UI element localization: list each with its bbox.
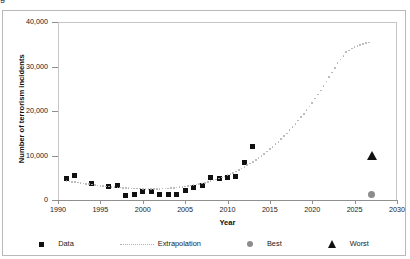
extrapolation-point — [263, 153, 265, 155]
x-axis-tick — [228, 200, 229, 204]
extrapolation-point — [311, 102, 313, 104]
extrapolation-point — [85, 183, 87, 185]
extrapolation-point — [71, 181, 73, 183]
square-icon — [39, 242, 44, 247]
circle-icon — [247, 241, 253, 247]
extrapolation-point — [244, 166, 246, 168]
extrapolation-point — [207, 181, 209, 183]
x-axis-tick-label: 2020 — [292, 206, 332, 213]
extrapolation-point — [334, 67, 336, 69]
triangle-icon — [328, 240, 336, 248]
extrapolation-point — [280, 138, 282, 140]
y-axis-tick-label: 10,000 — [0, 152, 48, 159]
extrapolation-point — [221, 177, 223, 179]
extrapolation-point — [182, 186, 184, 188]
data-point — [149, 189, 154, 194]
plot-area — [58, 22, 397, 200]
extrapolation-point — [286, 133, 288, 135]
data-point — [140, 189, 145, 194]
extrapolation-point — [255, 159, 257, 161]
extrapolation-point — [238, 169, 240, 171]
data-point — [183, 188, 188, 193]
legend-label: Best — [267, 240, 282, 247]
extrapolation-point — [74, 181, 76, 183]
legend-label: Worst — [350, 240, 369, 247]
x-axis-tick-label: 1995 — [80, 206, 120, 213]
x-axis-tick — [397, 200, 398, 204]
extrapolation-point — [300, 116, 302, 118]
y-axis-tick-label: 0 — [0, 196, 48, 203]
extrapolation-point — [235, 171, 237, 173]
data-point — [157, 192, 162, 197]
extrapolation-point — [122, 187, 124, 189]
y-axis-tick-label: 40,000 — [0, 18, 48, 25]
x-axis-tick-label: 2010 — [208, 206, 248, 213]
legend-item-best[interactable]: Best — [247, 240, 282, 247]
extrapolation-point — [102, 185, 104, 187]
x-axis-tick — [355, 200, 356, 204]
legend-item-worst[interactable]: Worst — [328, 240, 369, 248]
data-point — [250, 144, 255, 149]
extrapolation-point — [142, 188, 144, 190]
caption-fragment: g — [0, 0, 200, 5]
extrapolation-point — [198, 183, 200, 185]
extrapolation-point — [230, 173, 232, 175]
chart-legend: DataExtrapolationBestWorst — [2, 236, 406, 252]
data-point — [123, 193, 128, 198]
extrapolation-point — [252, 161, 254, 163]
extrapolation-point — [278, 141, 280, 143]
data-point — [72, 173, 77, 178]
extrapolation-point — [150, 188, 152, 190]
extrapolation-point — [88, 183, 90, 185]
extrapolation-point — [173, 187, 175, 189]
x-axis-tick-label: 2015 — [250, 206, 290, 213]
data-point — [174, 192, 179, 197]
extrapolation-point — [303, 113, 305, 115]
extrapolation-point — [170, 187, 172, 189]
x-axis-tick — [270, 200, 271, 204]
extrapolation-point — [148, 188, 150, 190]
x-axis-tick — [100, 200, 101, 204]
data-point — [166, 192, 171, 197]
extrapolation-point — [357, 45, 359, 47]
x-axis-tick — [185, 200, 186, 204]
legend-item-extrapolation[interactable]: Extrapolation — [120, 240, 201, 247]
extrapolation-point — [105, 186, 107, 188]
extrapolation-point — [100, 185, 102, 187]
x-axis-tick — [143, 200, 144, 204]
y-axis-tick — [52, 111, 58, 112]
y-axis-tick-label: 20,000 — [0, 107, 48, 114]
extrapolation-point — [94, 184, 96, 186]
x-axis-tick-label: 2000 — [123, 206, 163, 213]
x-axis-tick-label: 1990 — [38, 206, 78, 213]
legend-label: Extrapolation — [158, 240, 201, 247]
data-point — [132, 192, 137, 197]
legend-item-data[interactable]: Data — [39, 240, 74, 247]
y-axis-tick — [52, 67, 58, 68]
extrapolation-point — [156, 188, 158, 190]
extrapolation-point — [167, 188, 169, 190]
x-axis-title: Year — [58, 219, 397, 227]
extrapolation-point — [125, 187, 127, 189]
extrapolation-point — [204, 182, 206, 184]
y-axis-tick — [52, 22, 58, 23]
extrapolation-point — [69, 181, 71, 183]
x-axis-tick-label: 2025 — [335, 206, 375, 213]
data-point — [233, 174, 238, 179]
extrapolation-point — [295, 123, 297, 125]
extrapolation-point — [362, 43, 364, 45]
extrapolation-point — [343, 55, 345, 57]
y-axis-tick-label: 30,000 — [0, 63, 48, 70]
legend-label: Data — [58, 240, 74, 247]
extrapolation-point — [345, 51, 347, 53]
extrapolation-point — [283, 135, 285, 137]
x-axis-tick — [58, 200, 59, 204]
extrapolation-point — [365, 42, 367, 44]
extrapolation-point — [359, 44, 361, 46]
worst-marker — [367, 151, 377, 160]
y-axis-tick — [52, 156, 58, 157]
x-axis-tick-label: 2005 — [165, 206, 205, 213]
extrapolation-point — [201, 183, 203, 185]
extrapolation-point — [261, 155, 263, 157]
extrapolation-point — [187, 185, 189, 187]
